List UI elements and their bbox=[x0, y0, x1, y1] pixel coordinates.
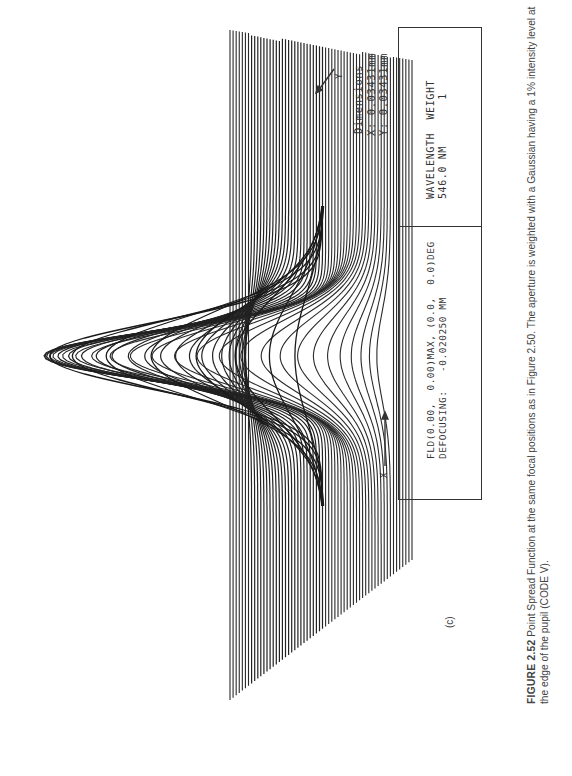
psf-peak-profiles bbox=[44, 35, 324, 683]
wavelength-header: WAVELENGTH WEIGHT bbox=[425, 80, 437, 199]
y-axis-label: Y bbox=[334, 74, 344, 79]
defocusing-line: DEFOCUSING: -0.020250 MM bbox=[437, 241, 449, 459]
dimensions-x: X: 0.03431mm bbox=[365, 53, 378, 136]
figure-caption: FIGURE 2.52 Point Spread Function at the… bbox=[526, 4, 551, 704]
dimensions-block: Dimensions X: 0.03431mm Y: 0.03431mm bbox=[352, 53, 390, 136]
panel-label: (c) bbox=[444, 616, 455, 628]
dimensions-y: Y: 0.03431mm bbox=[377, 53, 390, 136]
x-axis-label: X bbox=[379, 473, 389, 478]
plot-info-box: FLD(0.00, 0.00)MAX, (0.0, 0.0)DEGDEFOCUS… bbox=[398, 27, 482, 500]
dimensions-title: Dimensions bbox=[352, 53, 365, 136]
caption-text: Point Spread Function at the same focal … bbox=[526, 7, 550, 704]
figure-page: Y X Dimensions X: 0.03431mm Y: 0.03431mm… bbox=[0, 0, 572, 776]
figure-number: FIGURE 2.52 bbox=[526, 640, 537, 704]
wavelength-value: 546.0 NM 1 bbox=[437, 80, 449, 199]
info-box-divider bbox=[399, 226, 481, 227]
field-line: FLD(0.00, 0.00)MAX, (0.0, 0.0)DEG bbox=[425, 241, 437, 459]
psf-surface-plot bbox=[0, 0, 572, 776]
wavelength-block: WAVELENGTH WEIGHT546.0 NM 1 bbox=[425, 80, 449, 199]
field-defocus-block: FLD(0.00, 0.00)MAX, (0.0, 0.0)DEGDEFOCUS… bbox=[425, 241, 449, 459]
